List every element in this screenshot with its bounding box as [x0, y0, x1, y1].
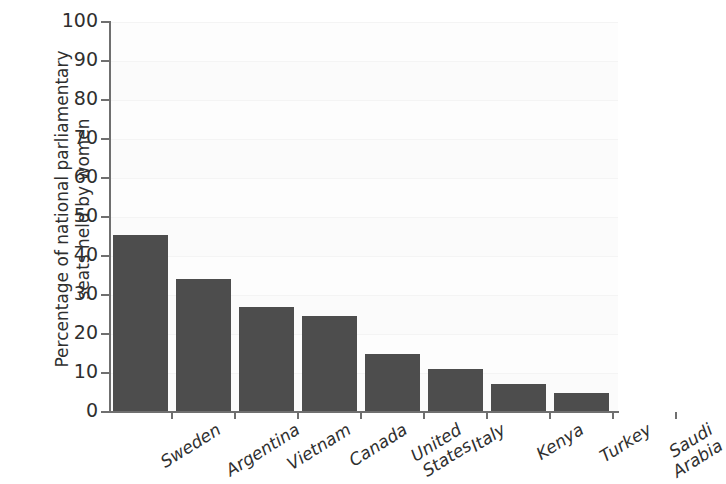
x-axis-tick-label: Kenya — [533, 420, 587, 464]
x-axis-tick-label-line: Canada — [345, 419, 410, 470]
x-axis-tick-label: Italy — [468, 420, 509, 456]
x-axis-tick-mark — [675, 412, 677, 419]
x-axis-tick-label: SaudiArabia — [659, 420, 726, 481]
x-axis-tick-label: UnitedStates — [408, 420, 476, 482]
x-axis-tick-label: Canada — [346, 420, 411, 470]
x-axis-tick-label: Sweden — [157, 420, 224, 472]
x-axis-tick-label-line: Sweden — [157, 419, 225, 472]
x-axis-tick-label-line: Italy — [467, 419, 509, 456]
x-axis-tick-label-line: Turkey — [596, 419, 655, 466]
x-axis-tick-label: Turkey — [597, 420, 655, 466]
x-axis-tick-label-line: Kenya — [533, 419, 588, 464]
